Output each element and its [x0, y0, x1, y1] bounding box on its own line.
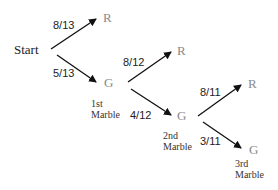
- stage-label-2nd-marble: 2nd Marble: [163, 130, 192, 152]
- stage-label-3rd-marble: 3rd Marble: [235, 158, 264, 180]
- prob-level3-r: 8/11: [200, 87, 221, 98]
- stage-label-1st-marble: 1st Marble: [91, 98, 120, 120]
- prob-level1-r: 8/13: [53, 20, 74, 31]
- prob-level1-g: 5/13: [53, 68, 74, 79]
- stage-label-line2: Marble: [163, 141, 192, 152]
- stage-label-line1: 1st: [91, 98, 120, 109]
- node-level1-g: G: [104, 76, 113, 89]
- node-level3-g: G: [249, 143, 258, 156]
- node-level2-g: G: [177, 109, 186, 122]
- prob-level3-g: 3/11: [200, 136, 221, 147]
- node-level3-r: R: [248, 77, 257, 90]
- node-level1-r: R: [103, 11, 112, 24]
- start-label: Start: [14, 43, 39, 56]
- prob-level2-r: 8/12: [123, 57, 144, 68]
- stage-label-line2: Marble: [235, 169, 264, 180]
- stage-label-line2: Marble: [91, 109, 120, 120]
- stage-label-line1: 3rd: [235, 158, 264, 169]
- node-level2-r: R: [177, 44, 186, 57]
- prob-level2-g: 4/12: [130, 110, 151, 121]
- stage-label-line1: 2nd: [163, 130, 192, 141]
